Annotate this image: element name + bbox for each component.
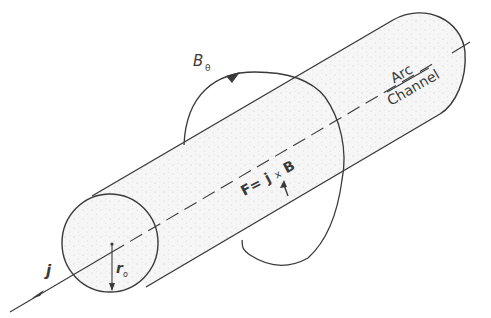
current-arrow-icon xyxy=(32,290,44,298)
b-field-subscript: θ xyxy=(205,63,211,73)
cylinder-front-cap xyxy=(62,194,158,292)
b-field-label: B xyxy=(193,52,203,70)
current-label: j xyxy=(44,262,52,280)
arc-channel-diagram: B θ Arc Channel F= j x B j r o xyxy=(0,0,491,318)
b-field-arrow-icon xyxy=(226,72,240,83)
b-field-loop-lower xyxy=(242,240,308,265)
radius-subscript: o xyxy=(123,270,128,279)
